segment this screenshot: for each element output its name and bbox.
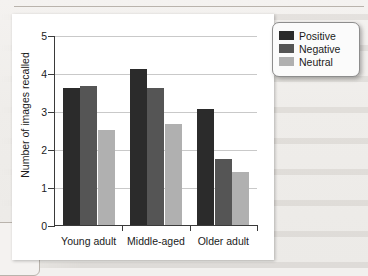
chart-legend: Positive Negative Neutral bbox=[272, 22, 360, 77]
y-axis-tick bbox=[48, 226, 55, 227]
bar-positive bbox=[130, 69, 147, 225]
plot-wrapper: Number of images recalled 012345Young ad… bbox=[12, 14, 274, 260]
x-axis-label: Older adult bbox=[190, 235, 257, 247]
bar-negative bbox=[147, 88, 164, 225]
bar-neutral bbox=[98, 130, 115, 225]
legend-item-neutral: Neutral bbox=[279, 57, 353, 68]
bar-neutral bbox=[232, 172, 249, 225]
page-top-rule bbox=[14, 6, 364, 7]
legend-label-positive: Positive bbox=[299, 31, 336, 42]
legend-item-positive: Positive bbox=[279, 31, 353, 42]
bar-positive bbox=[197, 109, 214, 225]
legend-swatch-positive bbox=[279, 31, 294, 40]
plot-area: 012345Young adultMiddle-agedOlder adult bbox=[54, 36, 257, 226]
legend-swatch-neutral bbox=[279, 57, 294, 66]
x-axis-label: Middle-aged bbox=[122, 235, 189, 247]
y-axis-tick bbox=[48, 36, 55, 37]
bar-group bbox=[122, 36, 189, 225]
y-axis-label: 0 bbox=[29, 221, 47, 232]
x-axis-label: Young adult bbox=[55, 235, 122, 247]
bar-group bbox=[55, 36, 122, 225]
y-axis-label: 5 bbox=[29, 31, 47, 42]
bar-negative bbox=[215, 159, 232, 226]
bar-positive bbox=[63, 88, 80, 225]
legend-label-neutral: Neutral bbox=[299, 57, 333, 68]
y-axis-label: 1 bbox=[29, 183, 47, 194]
y-axis-tick bbox=[48, 150, 55, 151]
y-axis-label: 3 bbox=[29, 107, 47, 118]
bar-neutral bbox=[165, 124, 182, 225]
bar-chart: Number of images recalled 012345Young ad… bbox=[12, 14, 274, 260]
y-axis-tick bbox=[48, 74, 55, 75]
legend-swatch-negative bbox=[279, 44, 294, 53]
y-axis-tick bbox=[48, 112, 55, 113]
bar-group bbox=[190, 36, 257, 225]
x-axis-tick bbox=[257, 225, 258, 231]
y-axis-label: 4 bbox=[29, 69, 47, 80]
x-axis-tick bbox=[190, 225, 191, 231]
y-axis-label: 2 bbox=[29, 145, 47, 156]
legend-label-negative: Negative bbox=[299, 44, 340, 55]
legend-item-negative: Negative bbox=[279, 44, 353, 55]
bar-negative bbox=[80, 86, 97, 225]
x-axis-tick bbox=[122, 225, 123, 231]
y-axis-tick bbox=[48, 188, 55, 189]
